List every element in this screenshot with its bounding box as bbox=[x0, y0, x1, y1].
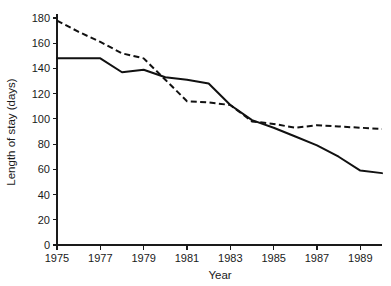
x-tick-label: 1989 bbox=[348, 252, 372, 264]
chart-container: 020406080100120140160180 197519771979198… bbox=[0, 0, 391, 286]
x-axis-ticks: 19751977197919811983198519871989 bbox=[45, 245, 373, 264]
series-line-solid bbox=[57, 58, 382, 173]
y-tick-label: 140 bbox=[32, 62, 50, 74]
x-tick-label: 1983 bbox=[218, 252, 242, 264]
x-tick-label: 1975 bbox=[45, 252, 69, 264]
y-tick-label: 160 bbox=[32, 37, 50, 49]
x-tick-label: 1985 bbox=[261, 252, 285, 264]
y-tick-label: 120 bbox=[32, 88, 50, 100]
x-tick-label: 1977 bbox=[88, 252, 112, 264]
y-tick-label: 180 bbox=[32, 12, 50, 24]
y-tick-label: 100 bbox=[32, 113, 50, 125]
x-axis-title: Year bbox=[208, 269, 231, 281]
x-tick-label: 1987 bbox=[305, 252, 329, 264]
y-tick-label: 40 bbox=[38, 189, 50, 201]
y-tick-label: 20 bbox=[38, 214, 50, 226]
y-axis-ticks: 020406080100120140160180 bbox=[32, 12, 57, 251]
y-tick-label: 80 bbox=[38, 138, 50, 150]
y-tick-label: 60 bbox=[38, 163, 50, 175]
series-line-dashed bbox=[57, 21, 382, 129]
x-tick-label: 1979 bbox=[131, 252, 155, 264]
y-axis-title: Length of stay (days) bbox=[5, 78, 17, 186]
y-tick-label: 0 bbox=[44, 239, 50, 251]
x-tick-label: 1981 bbox=[175, 252, 199, 264]
line-chart: 020406080100120140160180 197519771979198… bbox=[0, 0, 391, 286]
